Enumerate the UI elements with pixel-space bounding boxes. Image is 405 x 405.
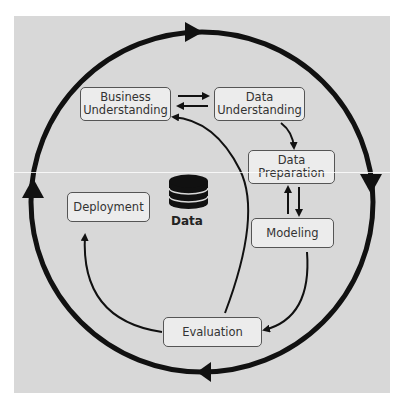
phase-data-understanding: Data Understanding [214, 87, 305, 121]
phase-label-line2: Understanding [83, 104, 168, 117]
database-icon [169, 175, 208, 210]
cycle-arrow-left-icon [22, 178, 44, 198]
phase-label: Modeling [266, 227, 318, 240]
cycle-arrow-top-icon [185, 22, 203, 42]
phase-deployment: Deployment [67, 192, 150, 222]
arrow-eval-to-deploy [85, 235, 162, 332]
center-data-label: Data [162, 214, 212, 228]
phase-modeling: Modeling [251, 218, 334, 248]
phase-data-preparation: Data Preparation [248, 150, 335, 184]
phase-evaluation: Evaluation [163, 317, 262, 347]
cycle-arrow-bottom-icon [197, 362, 211, 382]
arrow-mod-to-eval [264, 252, 307, 330]
phase-label-line2: Understanding [217, 104, 302, 117]
cycle-arrow-right-icon [360, 174, 382, 194]
phase-label-line2: Preparation [258, 167, 324, 180]
arrow-du-to-dp [281, 123, 294, 148]
phase-label: Deployment [73, 201, 143, 214]
scan-artifact-line [14, 172, 390, 173]
phase-business-understanding: Business Understanding [80, 87, 171, 121]
phase-label: Evaluation [182, 326, 243, 339]
